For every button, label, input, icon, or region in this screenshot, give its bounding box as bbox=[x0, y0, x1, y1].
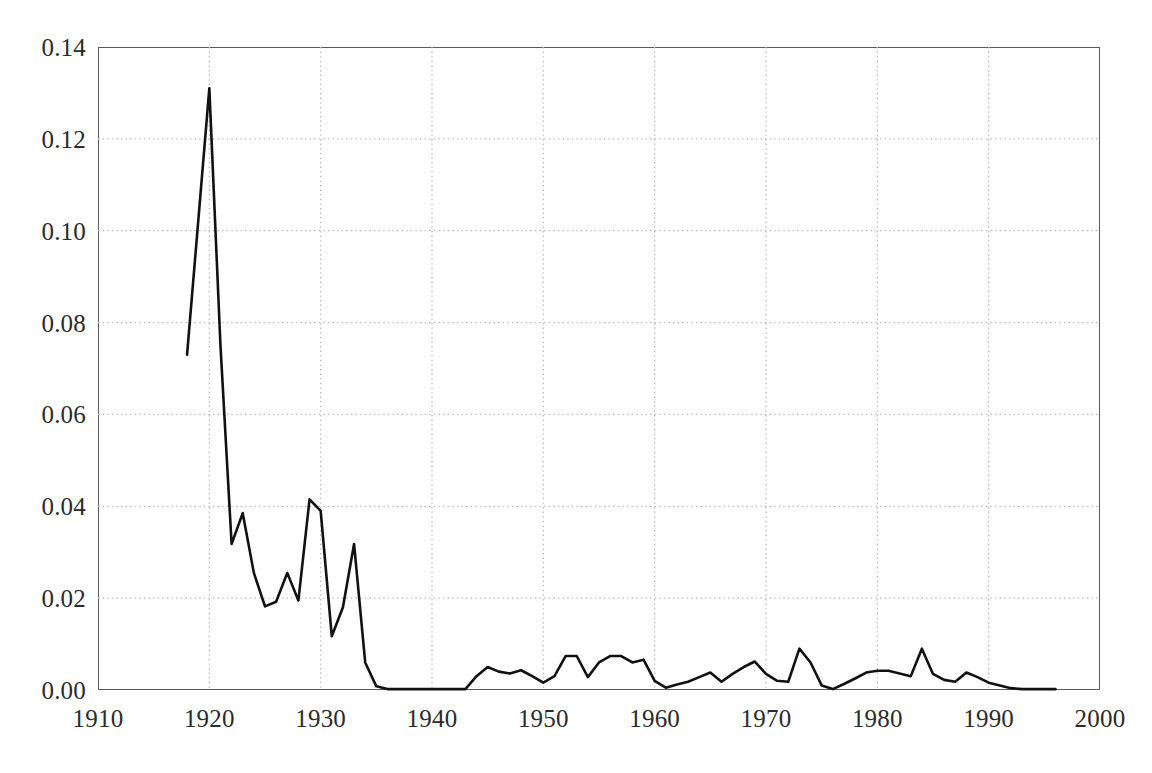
y-axis-tick-label: 0.04 bbox=[10, 494, 86, 519]
y-axis-tick-label: 0.08 bbox=[10, 311, 86, 336]
y-axis-tick-labels: 0.000.020.040.060.080.100.120.14 bbox=[0, 0, 86, 773]
y-axis-tick-label: 0.06 bbox=[10, 402, 86, 427]
y-axis-tick-label: 0.02 bbox=[10, 586, 86, 611]
x-axis-tick-label: 2000 bbox=[1030, 706, 1152, 731]
y-axis-tick-label: 0.10 bbox=[10, 219, 86, 244]
y-axis-tick-label: 0.00 bbox=[10, 678, 86, 703]
y-axis-tick-label: 0.14 bbox=[10, 35, 86, 60]
plot-area-frame bbox=[98, 47, 1100, 690]
chart-container: 0.000.020.040.060.080.100.120.14 1910192… bbox=[0, 0, 1152, 773]
y-axis-tick-label: 0.12 bbox=[10, 127, 86, 152]
